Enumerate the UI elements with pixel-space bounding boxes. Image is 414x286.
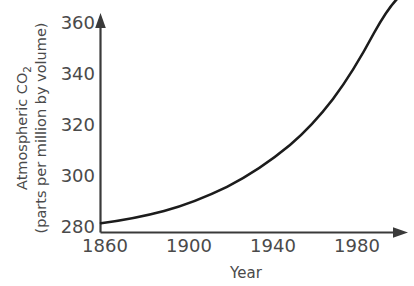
x-axis-title: Year bbox=[229, 264, 263, 282]
xtick-label-1900: 1900 bbox=[166, 235, 212, 256]
xtick-label-1860: 1860 bbox=[82, 235, 128, 256]
ytick-label-340: 340 bbox=[61, 63, 95, 84]
y-axis-arrow-icon bbox=[95, 13, 106, 28]
chart-figure: 360 340 320 300 280 1860 1900 1940 1980 … bbox=[0, 0, 414, 286]
x-axis-arrow-icon bbox=[393, 227, 408, 237]
ytick-label-320: 320 bbox=[61, 114, 95, 135]
co2-line-chart: 360 340 320 300 280 1860 1900 1940 1980 … bbox=[0, 0, 414, 286]
y-axis-title-line1-group: Atmospheric CO2 bbox=[14, 66, 33, 190]
y-axis-title-line2-group: (parts per million by volume) bbox=[33, 23, 49, 234]
y-axis-title-line2: (parts per million by volume) bbox=[33, 23, 49, 234]
xtick-label-1940: 1940 bbox=[250, 235, 296, 256]
co2-curve bbox=[101, 0, 398, 223]
ytick-label-360: 360 bbox=[61, 12, 95, 33]
ytick-label-280: 280 bbox=[61, 216, 95, 237]
y-axis-title-line1: Atmospheric CO2 bbox=[14, 66, 33, 190]
ytick-label-300: 300 bbox=[61, 165, 95, 186]
xtick-label-1980: 1980 bbox=[334, 235, 380, 256]
